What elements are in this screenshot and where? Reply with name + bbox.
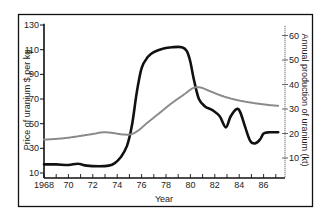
x-tick-label: 84 <box>234 180 244 190</box>
x-tick-label: 82 <box>210 180 220 190</box>
y-axis-title-left: Price of uranium $ per kg <box>22 50 32 151</box>
x-tick-label: 78 <box>161 180 171 190</box>
x-tick-label: 86 <box>259 180 269 190</box>
x-tick-label: 1968 <box>34 180 54 190</box>
y-axis-title-right: Annual production of uranium (kt) <box>300 33 310 166</box>
x-tick-label: 70 <box>63 180 73 190</box>
y-tick-label-right: 60 <box>289 31 299 41</box>
x-tick-label: 74 <box>112 180 122 190</box>
y-tick-label-right: 20 <box>289 129 299 139</box>
x-tick-label: 80 <box>185 180 195 190</box>
production-line <box>44 87 278 139</box>
y-tick-label-left: 10 <box>29 168 39 178</box>
series-group <box>44 47 278 166</box>
y-tick-label-right: 30 <box>289 104 299 114</box>
x-axis-title: Year <box>155 194 173 204</box>
y-tick-label-left: 130 <box>24 20 39 30</box>
x-tick-label: 76 <box>137 180 147 190</box>
y-tick-label-right: 40 <box>289 80 299 90</box>
chart: 1030507090110130196870727476788082848610… <box>0 0 326 216</box>
y-tick-label-right: 10 <box>289 153 299 163</box>
y-tick-label-right: 50 <box>289 55 299 65</box>
x-tick-label: 72 <box>88 180 98 190</box>
price-line <box>44 47 278 166</box>
